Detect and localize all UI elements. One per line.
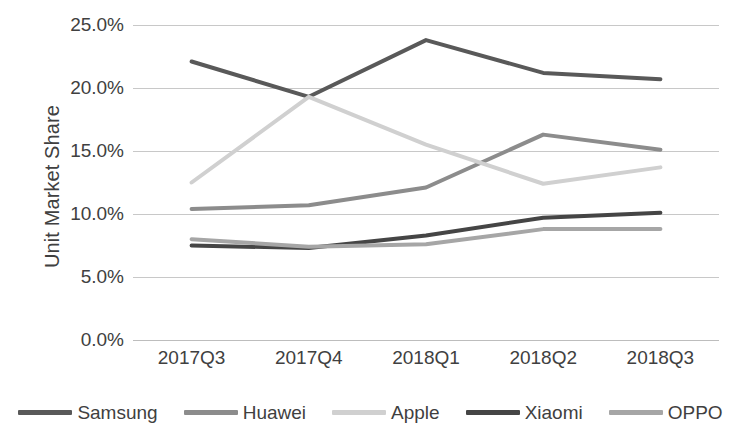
y-axis-tick-labels: 0.0%5.0%10.0%15.0%20.0%25.0% [28,0,124,439]
x-tick-label: 2018Q3 [627,348,695,369]
legend-item-oppo[interactable]: OPPO [609,403,723,422]
legend-swatch-icon [18,410,72,415]
legend-label: Huawei [243,403,306,422]
y-tick-label: 10.0% [28,204,124,223]
y-tick-label: 20.0% [28,78,124,97]
legend-swatch-icon [332,410,386,415]
x-axis-tick-labels: 2017Q32017Q42018Q12018Q22018Q3 [133,348,719,378]
x-tick-label: 2017Q3 [158,348,226,369]
plot-area [133,25,719,340]
legend-swatch-icon [184,410,238,415]
legend-swatch-icon [609,410,663,415]
chart-legend: SamsungHuaweiAppleXiaomiOPPO [0,396,741,428]
y-tick-label: 25.0% [28,15,124,34]
legend-item-samsung[interactable]: Samsung [18,403,157,422]
series-lines [133,25,719,340]
legend-item-huawei[interactable]: Huawei [184,403,306,422]
x-tick-label: 2018Q1 [392,348,460,369]
legend-swatch-icon [466,410,520,415]
legend-label: Apple [391,403,440,422]
legend-item-apple[interactable]: Apple [332,403,440,422]
y-tick-label: 0.0% [28,330,124,349]
x-tick-label: 2017Q4 [275,348,343,369]
y-tick-label: 15.0% [28,141,124,160]
y-tick-label: 5.0% [28,267,124,286]
x-tick-label: 2018Q2 [509,348,577,369]
legend-item-xiaomi[interactable]: Xiaomi [466,403,583,422]
market-share-line-chart: Unit Market Share 0.0%5.0%10.0%15.0%20.0… [0,0,741,439]
legend-label: Xiaomi [525,403,583,422]
legend-label: Samsung [77,403,157,422]
legend-label: OPPO [668,403,723,422]
gridline-0 [133,340,719,341]
series-line-oppo [192,229,661,247]
series-line-samsung [192,40,661,97]
